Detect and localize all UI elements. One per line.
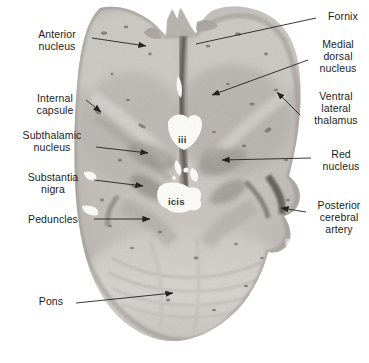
label-red-nucleus: Red nucleus: [316, 148, 366, 172]
label-fornix: Fornix: [321, 10, 365, 22]
figure-container: Anterior nucleus Internal capsule Subtha…: [0, 0, 369, 363]
label-anterior-nucleus: Anterior nucleus: [24, 28, 90, 52]
label-third-ventricle: iii: [178, 134, 187, 145]
label-posterior-cerebral-artery: Posterior cerebral artery: [310, 199, 368, 236]
label-interpeduncular-cistern: icis: [168, 196, 185, 207]
label-medial-dorsal-nucleus: Medial dorsal nucleus: [310, 38, 366, 75]
label-ventral-lateral-thalamus: Ventral lateral thalamus: [305, 90, 367, 127]
label-peduncles: Peduncles: [14, 213, 92, 225]
label-internal-capsule: Internal capsule: [22, 92, 88, 116]
label-substantia-nigra: Substantia nigra: [14, 171, 92, 195]
label-pons: Pons: [30, 295, 72, 307]
label-subthalamic-nucleus: Subthalamic nucleus: [8, 129, 96, 153]
